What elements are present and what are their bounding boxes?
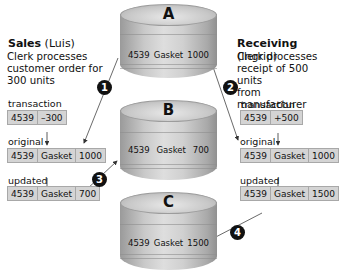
- step-badge-4: 4: [230, 225, 245, 240]
- sales-desc-line: 300 units: [7, 75, 103, 87]
- record-id: 4539: [241, 187, 271, 200]
- record-quantity: 1000: [309, 149, 338, 162]
- sales-title: Sales: [8, 37, 41, 50]
- sales-original-label: original: [8, 136, 44, 147]
- sales-transaction-record: 4539 –300: [7, 110, 67, 125]
- sales-heading: Sales (Luis): [8, 37, 75, 50]
- record-quantity: 1000: [76, 149, 105, 162]
- database-record: 4539 Gasket 700: [128, 145, 209, 155]
- record-quantity-change: –300: [38, 111, 66, 124]
- record-quantity: 700: [76, 187, 99, 200]
- database-label: B: [120, 102, 217, 118]
- database-c: C 4539 Gasket 1500: [120, 192, 217, 270]
- record-item: Gasket: [38, 187, 76, 200]
- record-item: Gasket: [271, 187, 309, 200]
- sales-desc-line: Clerk processes: [7, 51, 103, 63]
- record-quantity: 1000: [187, 50, 209, 60]
- record-id: 4539: [8, 111, 38, 124]
- record-item: Gasket: [154, 50, 183, 60]
- record-id: 4539: [128, 50, 150, 60]
- sales-updated-label: updated: [8, 175, 48, 186]
- database-label: A: [120, 6, 217, 22]
- database-label: C: [120, 194, 217, 210]
- step-badge-2: 2: [223, 80, 238, 95]
- record-quantity-change: +500: [271, 111, 302, 124]
- database-a: A 4539 Gasket 1000: [120, 4, 217, 78]
- database-record: 4539 Gasket 1500: [128, 238, 209, 248]
- receiving-original-label: original: [240, 136, 276, 147]
- record-item: Gasket: [271, 149, 309, 162]
- receiving-transaction-label: transaction: [241, 99, 295, 110]
- sales-original-record: 4539 Gasket 1000: [7, 148, 106, 163]
- record-quantity: 1500: [309, 187, 338, 200]
- sales-desc-line: customer order for: [7, 63, 103, 75]
- record-quantity: 700: [193, 145, 209, 155]
- sales-person: (Luis): [41, 37, 75, 50]
- receiving-original-record: 4539 Gasket 1000: [240, 148, 339, 163]
- receiving-desc-line: receipt of 500 units: [237, 63, 325, 87]
- record-id: 4539: [241, 149, 271, 162]
- record-item: Gasket: [38, 149, 76, 162]
- record-id: 4539: [128, 238, 150, 248]
- receiving-updated-label: updated: [240, 175, 280, 186]
- sales-transaction-label: transaction: [8, 98, 62, 109]
- database-record: 4539 Gasket 1000: [128, 50, 209, 60]
- sales-updated-record: 4539 Gasket 700: [7, 186, 100, 201]
- record-item: Gasket: [157, 145, 186, 155]
- record-quantity: 1500: [187, 238, 209, 248]
- record-id: 4539: [241, 111, 271, 124]
- receiving-title: Receiving: [237, 37, 297, 50]
- record-item: Gasket: [154, 238, 183, 248]
- step-badge-1: 1: [97, 80, 112, 95]
- sales-description: Clerk processes customer order for 300 u…: [7, 51, 103, 87]
- record-id: 4539: [8, 149, 38, 162]
- receiving-desc-line: Clerk processes: [237, 51, 325, 63]
- receiving-transaction-record: 4539 +500: [240, 110, 303, 125]
- record-id: 4539: [8, 187, 38, 200]
- step-badge-3: 3: [92, 172, 107, 187]
- database-b: B 4539 Gasket 700: [120, 100, 217, 180]
- receiving-updated-record: 4539 Gasket 1500: [240, 186, 339, 201]
- record-id: 4539: [128, 145, 150, 155]
